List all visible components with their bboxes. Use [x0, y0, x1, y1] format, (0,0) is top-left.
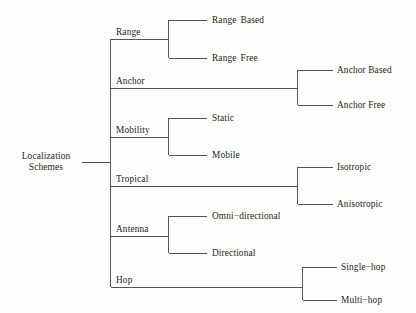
category-label-hop: Hop [116, 275, 132, 286]
category-label-mobility: Mobility [116, 125, 150, 136]
root-node-label-line2: Schemes [12, 162, 80, 173]
category-label-range: Range [116, 27, 141, 38]
leaf-label-anisotropic: Anisotropic [337, 199, 383, 210]
leaf-label-range-based: Range Based [212, 15, 264, 26]
leaf-label-static: Static [212, 113, 234, 124]
leaf-label-mobile: Mobile [212, 150, 240, 161]
root-node-label-line1: Localization [12, 151, 80, 162]
leaf-label-anchor-free: Anchor Free [337, 100, 385, 111]
category-label-anchor: Anchor [116, 76, 145, 87]
figure-canvas: Localization Schemes Range Anchor Mobili… [0, 0, 416, 313]
category-label-tropical: Tropical [116, 174, 148, 185]
leaf-label-anchor-based: Anchor Based [337, 65, 392, 76]
leaf-label-directional: Directional [212, 248, 255, 259]
leaf-label-multi-hop: Multi−hop [341, 295, 382, 306]
leaf-label-isotropic: Isotropic [337, 162, 371, 173]
category-label-antenna: Antenna [116, 224, 149, 235]
leaf-label-range-free: Range Free [212, 53, 258, 64]
leaf-label-single-hop: Single−hop [341, 262, 385, 273]
root-node-label: Localization Schemes [12, 151, 80, 173]
leaf-label-omni-directional: Omni−directional [212, 211, 281, 222]
